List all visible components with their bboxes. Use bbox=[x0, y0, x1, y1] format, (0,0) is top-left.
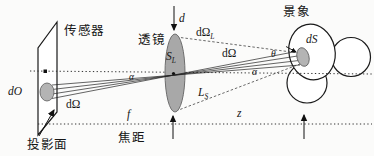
axis-dot bbox=[44, 70, 48, 74]
lens-label: 透镜 bbox=[138, 32, 165, 47]
scene-label: 景象 bbox=[283, 5, 310, 19]
image-patch-label: dO bbox=[8, 85, 23, 97]
sensor-label: 传感器 bbox=[64, 23, 105, 38]
alpha-left-label: α bbox=[129, 72, 135, 82]
scene-blob-right bbox=[332, 38, 371, 77]
focal-length-label: 焦距 bbox=[118, 131, 145, 145]
lens-solid-angle-label: dΩL bbox=[196, 26, 214, 41]
projection-plane-label: 投影面 bbox=[27, 137, 68, 152]
diagram-canvas: 传感器 透镜 景象 投影面 焦距 dO dΩ dΩ dΩL dS SL LS d… bbox=[0, 0, 374, 156]
lens-center-dot bbox=[172, 72, 175, 75]
theta-label: θ bbox=[271, 49, 276, 59]
sensor-patch bbox=[40, 83, 54, 101]
solid-angle-left-label: dΩ bbox=[66, 98, 80, 110]
solid-angle-right-label: dΩ bbox=[222, 47, 236, 59]
aperture-symbol: d bbox=[179, 12, 185, 24]
distance-symbol: z bbox=[236, 107, 242, 119]
sensor-plane bbox=[38, 22, 57, 135]
lens-solid-angle-upper-line bbox=[177, 37, 300, 53]
focal-symbol: f bbox=[127, 108, 132, 121]
scene-distance-label: LS bbox=[197, 86, 208, 101]
optics-imaging-diagram: 传感器 透镜 景象 投影面 焦距 dO dΩ dΩ dΩL dS SL LS d… bbox=[0, 0, 374, 156]
scene-patch-label: dS bbox=[306, 33, 318, 45]
